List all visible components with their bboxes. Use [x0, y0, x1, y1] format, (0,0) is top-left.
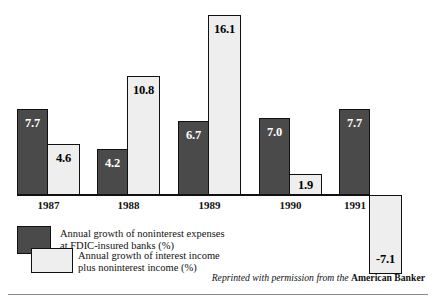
source-credit: Reprinted with permission from the Ameri… — [160, 272, 425, 283]
bar-1991-expenses: 7.7 — [339, 109, 370, 196]
footer-rule — [8, 294, 428, 295]
bar-value-label: 7.7 — [347, 117, 362, 195]
bar-1987-expenses: 7.7 — [17, 109, 48, 196]
x-tick-label-1991: 1991 — [335, 199, 375, 211]
bar-value-label: -7.1 — [376, 253, 395, 266]
bar-1988-expenses: 4.2 — [97, 149, 128, 196]
legend-label-income-line1: Annual growth of interest income — [78, 250, 220, 262]
source-credit-italic: Reprinted with permission from the — [212, 272, 349, 283]
legend-swatch-income — [31, 248, 73, 273]
bar-1990-income: 1.9 — [289, 174, 322, 196]
bar-1987-income: 4.6 — [47, 144, 80, 196]
legend-label-income: Annual growth of interest income plus no… — [78, 250, 220, 273]
x-tick-label-1988: 1988 — [97, 199, 160, 211]
legend-label-expenses: Annual growth of noninterest expenses at… — [60, 228, 224, 251]
legend-label-expenses-line1: Annual growth of noninterest expenses — [60, 228, 224, 240]
bar-value-label: 7.0 — [267, 126, 282, 195]
bar-value-label: 16.1 — [214, 23, 235, 195]
bar-1989-expenses: 6.7 — [178, 121, 209, 196]
x-tick-label-1989: 1989 — [178, 199, 241, 211]
source-credit-publication: American Banker — [351, 272, 425, 283]
bar-value-label: 4.2 — [105, 157, 120, 195]
bar-1988-income: 10.8 — [127, 76, 160, 196]
x-tick-label-1990: 1990 — [259, 199, 322, 211]
bar-value-label: 4.6 — [56, 152, 71, 195]
bar-value-label: 10.8 — [133, 84, 154, 195]
bar-value-label: 1.9 — [298, 179, 313, 195]
x-axis-baseline — [17, 194, 370, 196]
bar-1990-expenses: 7.0 — [259, 118, 290, 196]
bar-chart-figure: 7.7 4.6 4.2 10.8 6.7 16.1 7.0 1.9 7.7 — [0, 0, 435, 306]
x-tick-label-1987: 1987 — [17, 199, 80, 211]
bar-1989-income: 16.1 — [208, 15, 241, 196]
bar-value-label: 6.7 — [186, 129, 201, 195]
bar-value-label: 7.7 — [25, 117, 40, 195]
